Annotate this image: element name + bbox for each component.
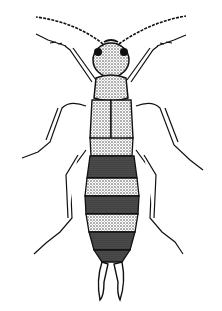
- head: [93, 40, 129, 77]
- antenna-left: [36, 17, 103, 44]
- front-leg-left: [36, 34, 96, 82]
- hind-leg-left: [34, 150, 86, 254]
- earwig-illustration: [0, 0, 222, 311]
- abdomen: [85, 156, 139, 262]
- hind-leg-right: [136, 150, 183, 254]
- illustration-canvas: Earwig: [0, 0, 222, 311]
- pronotum: [94, 75, 128, 101]
- front-leg-right: [127, 35, 186, 82]
- cerci: [98, 262, 123, 300]
- middle-leg-left: [22, 103, 86, 158]
- elytra: [90, 100, 133, 156]
